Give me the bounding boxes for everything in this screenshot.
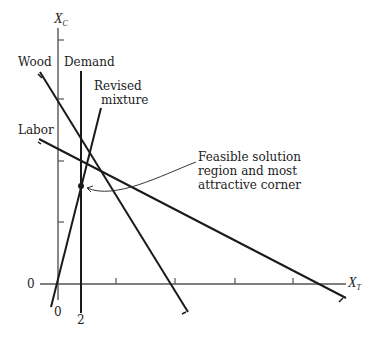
- wood-line: [40, 72, 188, 312]
- origin-y-label: 0: [27, 277, 35, 291]
- revised-mixture-label-line1: Revised: [94, 79, 142, 93]
- annotation-line-3: attractive corner: [198, 178, 301, 192]
- wood-label: Wood: [18, 55, 52, 69]
- x-tick-label-2: 2: [77, 313, 85, 327]
- labor-label: Labor: [18, 123, 54, 137]
- revised-mixture-label-line2: mixture: [101, 93, 148, 107]
- x-axis-label: XT: [348, 276, 361, 295]
- feasible-corner-point: [78, 183, 84, 189]
- demand-label: Demand: [64, 55, 115, 69]
- diagram-canvas: [0, 0, 377, 341]
- annotation-text: Feasible solution region and most attrac…: [198, 150, 301, 192]
- annotation-line-1: Feasible solution: [198, 150, 301, 164]
- annotation-line-2: region and most: [198, 164, 301, 178]
- origin-x-label: 0: [54, 305, 62, 319]
- y-axis-label: XC: [54, 12, 68, 31]
